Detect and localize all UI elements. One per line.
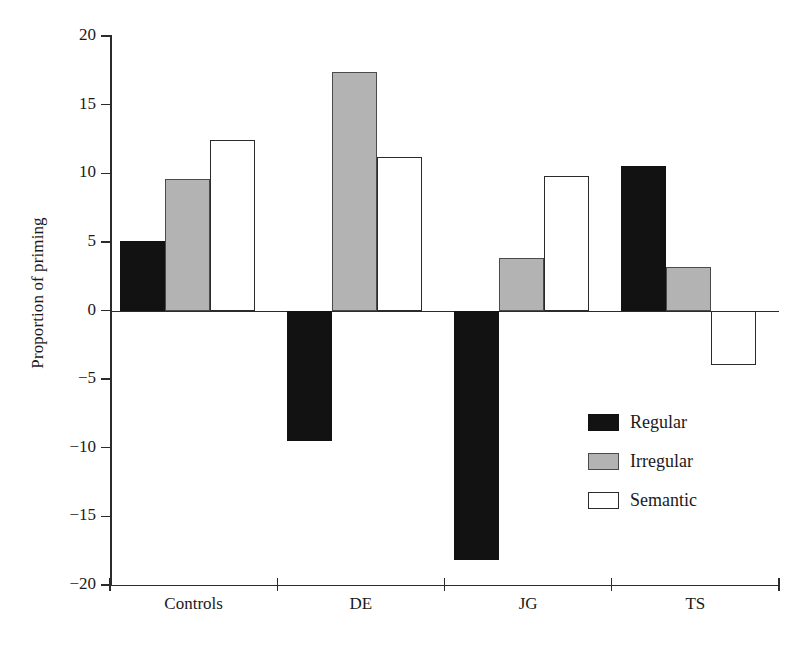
bar-chart-figure: Proportion of priming 20151050−5−10−15−2… [0,0,800,652]
y-axis-tick [101,310,111,311]
y-axis-tick-label: −10 [40,437,96,457]
bar-jg-irregular [499,258,544,311]
x-axis-tick [277,578,278,591]
y-axis-tick [101,104,111,105]
y-axis-tick-label: 5 [40,231,96,251]
chart-legend: RegularIrregularSemantic [588,412,697,511]
y-axis-tick [101,35,111,36]
legend-swatch-irregular-icon [588,453,619,470]
bar-controls-regular [120,241,165,311]
bar-ts-irregular [666,267,711,311]
y-axis-tick [101,516,111,517]
bar-jg-semantic [544,176,589,311]
y-axis-tick [101,173,111,174]
y-axis-tick-label: −5 [40,368,96,388]
bar-de-semantic [377,157,422,311]
legend-label: Regular [630,412,687,433]
legend-label: Irregular [630,451,693,472]
x-axis-tick [444,578,445,591]
y-axis-tick [101,447,111,448]
legend-label: Semantic [630,490,697,511]
legend-item-regular: Regular [588,412,697,433]
bar-ts-semantic [711,311,756,365]
x-axis-tick [109,578,110,591]
bar-de-irregular [332,72,377,311]
bar-ts-regular [621,166,666,311]
y-axis-tick-label: −20 [40,574,96,594]
x-axis-group-label: JG [445,594,612,614]
x-axis-tick [778,578,779,591]
y-axis-tick-label: 0 [40,300,96,320]
legend-swatch-regular-icon [588,414,619,431]
y-axis-tick [101,241,111,242]
bar-jg-regular [454,311,499,560]
y-axis-tick-label: 15 [40,94,96,114]
legend-swatch-semantic-icon [588,492,619,509]
bar-controls-irregular [165,179,210,311]
bar-controls-semantic [210,140,255,311]
y-axis-tick-label: 20 [40,25,96,45]
y-axis-tick-label: 10 [40,162,96,182]
x-axis-group-label: TS [612,594,779,614]
x-axis-group-label: DE [277,594,444,614]
y-axis-title: Proportion of priming [18,0,58,585]
y-axis-tick [101,378,111,379]
x-axis-tick [611,578,612,591]
y-axis-tick-label: −15 [40,505,96,525]
legend-item-semantic: Semantic [588,490,697,511]
legend-item-irregular: Irregular [588,451,697,472]
bar-de-regular [287,311,332,441]
x-axis-group-label: Controls [110,594,277,614]
